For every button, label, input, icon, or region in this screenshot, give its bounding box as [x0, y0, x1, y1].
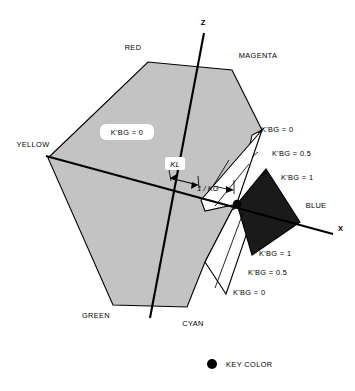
upper-region-label-1: K'BG = 1	[281, 173, 313, 182]
interior-region-callout: K'BG = 0	[100, 124, 154, 140]
vertex-label-magenta: MAGENTA	[239, 51, 277, 60]
lower-region-label-1: K'BG = 1	[259, 249, 291, 258]
legend-key-color-swatch	[207, 359, 217, 369]
kg-parameter-label: 1 / KG	[197, 184, 219, 193]
axis-label-z: Z	[201, 18, 206, 27]
vertex-label-cyan: CYAN	[182, 319, 203, 328]
axis-label-x: X	[338, 224, 343, 233]
color-space-hexagon-figure: Z X RED MAGENTA BLUE CYAN GREEN YELLOW K…	[0, 0, 355, 391]
kl-parameter-label: KL	[170, 160, 179, 169]
vertex-label-green: GREEN	[82, 311, 110, 320]
upper-region-label-0: K'BG = 0	[261, 125, 293, 134]
lower-region-label-05: K'BG = 0.5	[248, 268, 287, 277]
interior-region-label: K'BG = 0	[111, 128, 143, 137]
kl-parameter-callout: KL	[165, 157, 185, 170]
diagram-canvas: Z X RED MAGENTA BLUE CYAN GREEN YELLOW K…	[0, 0, 355, 391]
upper-region-label-05: K'BG = 0.5	[272, 149, 311, 158]
lower-region-label-0: K'BG = 0	[233, 288, 265, 297]
legend-key-color-label: KEY COLOR	[226, 360, 273, 369]
legend: KEY COLOR	[207, 359, 273, 369]
vertex-label-red: RED	[125, 43, 142, 52]
vertex-label-blue: BLUE	[306, 201, 327, 210]
vertex-label-yellow: YELLOW	[17, 140, 50, 149]
key-color-point-marker	[233, 200, 241, 208]
